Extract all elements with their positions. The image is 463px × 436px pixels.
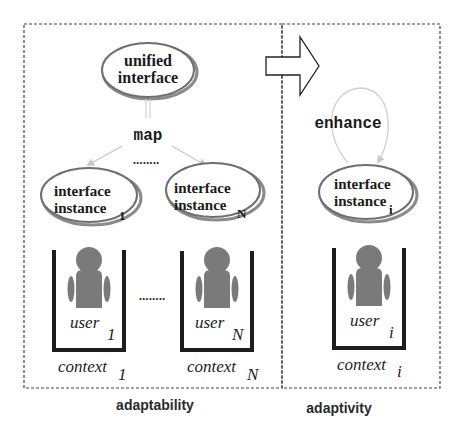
- user-n-label: user: [195, 313, 225, 332]
- diagram-canvas: unified interface map ........ interface…: [0, 0, 463, 436]
- interface-instance-1-node: interface instance 1: [41, 168, 141, 225]
- context-1-subscript: 1: [118, 365, 127, 384]
- instance-i-subscript: i: [389, 202, 393, 217]
- interface-instance-n-node: interface instance N: [166, 163, 264, 221]
- user-1-subscript: 1: [107, 325, 116, 344]
- user-i-subscript: i: [389, 323, 394, 342]
- instance-n-line1: interface: [174, 180, 231, 196]
- enhance-label: enhance: [314, 115, 381, 133]
- user-1-label: user: [70, 313, 100, 332]
- adaptivity-label: adaptivity: [306, 400, 372, 416]
- instance-1-line2: instance: [54, 200, 107, 216]
- instance-n-subscript: N: [237, 206, 247, 221]
- unified-interface-node: unified interface: [102, 43, 197, 99]
- user-1-icon: [68, 247, 111, 308]
- user-i-label: user: [350, 311, 380, 330]
- adaptability-label: adaptability: [116, 397, 194, 413]
- instance-1-line1: interface: [54, 183, 111, 199]
- user-n-subscript: N: [231, 325, 245, 344]
- instance-ellipsis: ........: [133, 153, 160, 167]
- map-arrow-1: [88, 146, 122, 165]
- unified-interface-line2: interface: [118, 69, 178, 86]
- map-label: map: [134, 127, 163, 145]
- instance-1-subscript: 1: [119, 208, 126, 223]
- context-container-i: user i: [334, 245, 404, 348]
- context-n-subscript: N: [246, 365, 260, 384]
- context-container-1: user 1: [54, 247, 124, 350]
- user-n-icon: [196, 247, 239, 308]
- interface-instance-i-node: interface instance i: [319, 165, 417, 222]
- map-arrow-n: [172, 146, 205, 165]
- transition-arrow-icon: [266, 37, 319, 95]
- unified-interface-line1: unified: [124, 52, 172, 69]
- user-ellipsis: ........: [139, 289, 166, 303]
- instance-i-line1: interface: [334, 176, 391, 192]
- instance-i-line2: instance: [334, 193, 387, 209]
- context-n-label: context: [187, 357, 237, 376]
- user-i-icon: [348, 245, 391, 306]
- instance-n-line2: instance: [174, 197, 227, 213]
- context-i-subscript: i: [397, 362, 402, 381]
- context-1-label: context: [58, 357, 108, 376]
- context-container-n: user N: [182, 247, 252, 350]
- context-i-label: context: [337, 355, 387, 374]
